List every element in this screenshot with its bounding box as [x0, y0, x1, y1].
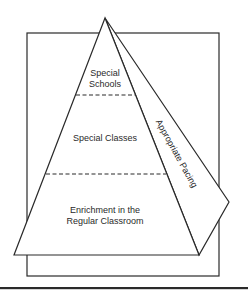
tier-label-enrichment-line1: Enrichment in the: [70, 205, 140, 215]
tier-label-special-classes: Special Classes: [73, 133, 138, 143]
tier-label-special-schools-line1: Special: [90, 68, 120, 78]
tier-label-enrichment-line2: Regular Classroom: [66, 216, 143, 226]
tier-label-special-schools-line2: Schools: [89, 79, 122, 89]
bottom-rule: [0, 287, 248, 289]
pyramid-diagram: Special Schools Special Classes Enrichme…: [0, 0, 248, 293]
